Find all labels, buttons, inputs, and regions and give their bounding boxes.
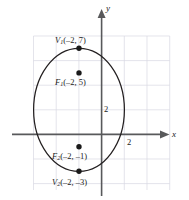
y-axis — [98, 9, 106, 196]
x-axis — [12, 130, 170, 138]
vertex-2-label: V2(–2, –3) — [52, 178, 87, 187]
vertex-2-point — [76, 169, 81, 174]
y-axis-tick-2: 2 — [104, 105, 108, 114]
focus-1-label: F1(–2, 5) — [55, 78, 86, 87]
vertex-2-coords: (–2, –3) — [60, 177, 87, 187]
focus-1-coords: (–2, 5) — [63, 77, 86, 87]
vertex-1-point — [76, 46, 81, 51]
x-axis-label: x — [172, 130, 176, 139]
focus-1-point — [76, 70, 81, 75]
focus-2-coords: (–2, –1) — [60, 151, 87, 161]
plot-canvas — [0, 0, 189, 200]
y-axis-label: y — [106, 4, 110, 13]
vertex-1-coords: (–2, 7) — [63, 35, 86, 45]
x-axis-tick-2: 2 — [127, 138, 131, 147]
vertex-1-label: V1(–2, 7) — [55, 36, 86, 45]
ellipse-figure: x y 2 2 V1(–2, 7) F1(–2, 5) F2(–2, –1) V… — [0, 0, 189, 200]
focus-2-point — [76, 144, 81, 149]
focus-2-label: F2(–2, –1) — [52, 152, 87, 161]
